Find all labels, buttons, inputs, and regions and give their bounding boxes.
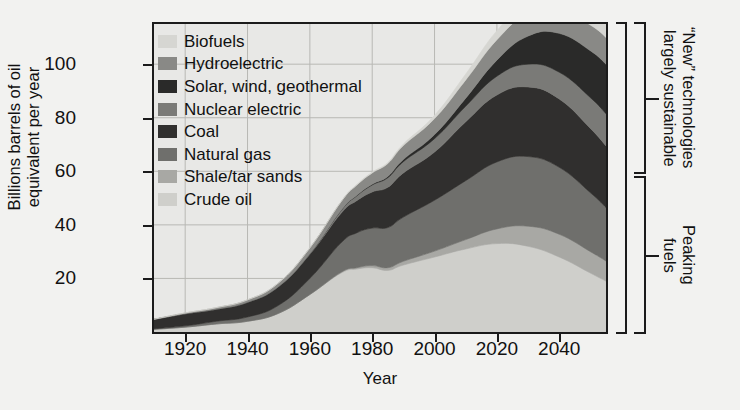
legend-item-label: Coal <box>184 123 219 140</box>
bracket-stem <box>646 255 659 257</box>
legend-item: Solar, wind, geothermal <box>158 75 362 98</box>
y-tick-mark <box>143 64 152 66</box>
legend-swatch-icon <box>158 148 177 161</box>
legend-swatch-icon <box>158 125 177 138</box>
y-tick-label-60: 60 <box>16 161 76 180</box>
legend-item-label: Natural gas <box>184 146 271 163</box>
peaking-fuels-bracket-label: Peaking fuels <box>660 176 698 334</box>
legend-item: Biofuels <box>158 30 362 53</box>
y-tick-mark <box>143 225 152 227</box>
y-tick-mark <box>143 278 152 280</box>
y-tick-label-80: 80 <box>16 108 76 127</box>
legend-swatch-icon <box>158 57 177 70</box>
legend-swatch-icon <box>158 35 177 48</box>
legend-item-label: Shale/tar sands <box>184 168 302 185</box>
y-tick-mark <box>143 118 152 120</box>
legend-swatch-icon <box>158 80 177 93</box>
legend-item: Nuclear electric <box>158 98 362 121</box>
legend-item: Coal <box>158 120 362 143</box>
y-axis-title: Billions barrels of oil equivalent per y… <box>5 0 43 287</box>
peaking-fuels-bracket <box>634 176 646 334</box>
y-tick-mark <box>143 171 152 173</box>
y-tick-label-100: 100 <box>16 54 76 73</box>
x-tick-mark <box>435 334 437 342</box>
bracket-stem <box>646 98 659 100</box>
legend-item-label: Hydroelectric <box>184 55 283 72</box>
legend-item-label: Crude oil <box>184 191 252 208</box>
legend-swatch-icon <box>158 103 177 116</box>
x-axis-title: Year <box>152 369 608 389</box>
legend-item-label: Solar, wind, geothermal <box>184 78 362 95</box>
legend-swatch-icon <box>158 193 177 206</box>
x-tick-mark <box>372 334 374 342</box>
legend-item: Crude oil <box>158 188 362 211</box>
legend-item: Natural gas <box>158 143 362 166</box>
legend: BiofuelsHydroelectricSolar, wind, geothe… <box>158 30 362 211</box>
new-technologies-bracket-label: “New” technologies largely sustainable <box>660 22 698 174</box>
y-tick-label-40: 40 <box>16 215 76 234</box>
legend-swatch-icon <box>158 170 177 183</box>
x-tick-mark <box>559 334 561 342</box>
legend-item: Hydroelectric <box>158 53 362 76</box>
legend-item-label: Nuclear electric <box>184 101 301 118</box>
overall-range-bracket <box>616 22 627 334</box>
x-tick-mark <box>185 334 187 342</box>
x-tick-mark <box>310 334 312 342</box>
legend-item: Shale/tar sands <box>158 166 362 189</box>
x-tick-mark <box>497 334 499 342</box>
chart-figure: Billions barrels of oil equivalent per y… <box>0 0 740 410</box>
new-technologies-bracket <box>634 22 646 174</box>
legend-item-label: Biofuels <box>184 33 244 50</box>
y-tick-label-20: 20 <box>16 268 76 287</box>
x-tick-mark <box>248 334 250 342</box>
